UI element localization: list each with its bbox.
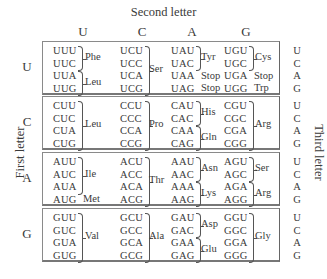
third-letter-C: C [291, 58, 303, 69]
first-letter-G: G [20, 226, 34, 242]
brace-icon [78, 157, 83, 195]
codon-GGU: GGU [224, 212, 248, 223]
second-letter-C: C [132, 24, 152, 40]
amino-acid-arg: Arg [255, 118, 271, 129]
amino-acid-ala: Ala [149, 230, 164, 241]
codon-AUU: AUU [53, 156, 77, 167]
amino-acid-stop: Stop [254, 70, 273, 81]
third-letter-C: C [291, 169, 303, 180]
codon-AUG: AUG [53, 194, 77, 205]
third-letter-G: G [291, 138, 303, 149]
codon-CUU: CUU [53, 100, 76, 111]
codon-GCA: GCA [120, 237, 143, 248]
third-letter-U: U [291, 45, 303, 56]
codon-AUA: AUA [53, 181, 77, 192]
third-letter-C: C [291, 225, 303, 236]
codon-AGU: AGU [224, 156, 248, 167]
codon-CCU: CCU [120, 100, 143, 111]
third-letter-A: A [291, 181, 303, 192]
amino-acid-thr: Thr [149, 174, 164, 185]
codon-CCA: CCA [120, 125, 143, 136]
amino-acid-arg: Arg [255, 187, 271, 198]
first-letter-C: C [20, 114, 34, 130]
second-letter-title: Second letter [0, 5, 327, 20]
codon-AAC: AAC [171, 169, 194, 180]
codon-UGU: UGU [224, 45, 248, 56]
amino-acid-lys: Lys [201, 187, 216, 198]
amino-acid-ile: Ile [85, 168, 96, 179]
codon-GCG: GCG [120, 250, 143, 261]
codon-UAG: UAG [171, 83, 195, 94]
third-letter-U: U [291, 100, 303, 111]
third-letter-A: A [291, 237, 303, 248]
codon-AGC: AGC [224, 169, 247, 180]
third-letter-G: G [291, 194, 303, 205]
brace-icon [78, 213, 83, 263]
codon-CAC: CAC [171, 113, 194, 124]
amino-acid-ser: Ser [255, 162, 269, 173]
codon-GCU: GCU [120, 212, 143, 223]
codon-CCG: CCG [120, 138, 143, 149]
codon-GAG: GAG [171, 250, 195, 261]
codon-UCU: UCU [120, 45, 143, 56]
codon-UGG: UGG [224, 83, 248, 94]
third-letter-G: G [291, 250, 303, 261]
brace-icon [78, 71, 83, 96]
codon-GGG: GGG [224, 250, 248, 261]
second-letter-U: U [73, 24, 93, 40]
codon-UAU: UAU [171, 45, 195, 56]
amino-acid-val: Val [85, 230, 99, 241]
codon-AGA: AGA [224, 181, 248, 192]
brace-icon [249, 101, 254, 151]
brace-icon [78, 46, 83, 71]
amino-acid-met: Met [83, 193, 100, 204]
codon-UGA: UGA [224, 70, 248, 81]
codon-AUC: AUC [53, 169, 76, 180]
codon-CGU: CGU [224, 100, 247, 111]
amino-acid-pro: Pro [149, 118, 164, 129]
codon-CGC: CGC [224, 113, 247, 124]
codon-GUA: GUA [53, 237, 77, 248]
codon-CAG: CAG [171, 138, 194, 149]
codon-AAU: AAU [171, 156, 195, 167]
codon-GAA: GAA [171, 237, 195, 248]
codon-CUG: CUG [53, 138, 76, 149]
codon-UUC: UUC [53, 58, 76, 69]
third-letter-G: G [291, 83, 303, 94]
amino-acid-tyr: Tyr [201, 51, 215, 62]
first-letter-A: A [20, 170, 34, 186]
codon-ACU: ACU [120, 156, 143, 167]
second-letter-A: A [182, 24, 202, 40]
third-letter-A: A [291, 125, 303, 136]
amino-acid-asn: Asn [201, 162, 218, 173]
first-letter-U: U [20, 59, 34, 75]
codon-UGC: UGC [224, 58, 247, 69]
amino-acid-gln: Gln [201, 131, 217, 142]
third-letter-label: Third letter [311, 113, 326, 193]
amino-acid-glu: Glu [201, 243, 217, 254]
codon-UAA: UAA [171, 70, 195, 81]
codon-GGA: GGA [224, 237, 248, 248]
amino-acid-phe: Phe [85, 51, 101, 62]
third-letter-U: U [291, 212, 303, 223]
codon-UCC: UCC [120, 58, 143, 69]
codon-UUA: UUA [53, 70, 77, 81]
codon-GCC: GCC [120, 225, 143, 236]
codon-AAG: AAG [171, 194, 195, 205]
third-letter-C: C [291, 113, 303, 124]
codon-CGG: CGG [224, 138, 247, 149]
amino-acid-asp: Asp [201, 218, 218, 229]
amino-acid-leu: Leu [85, 118, 101, 129]
codon-UCG: UCG [120, 83, 143, 94]
codon-UCA: UCA [120, 70, 143, 81]
codon-ACG: ACG [120, 194, 143, 205]
codon-UUU: UUU [53, 45, 77, 56]
amino-acid-his: His [201, 106, 216, 117]
codon-CAU: CAU [171, 100, 194, 111]
codon-CGA: CGA [224, 125, 247, 136]
amino-acid-ser: Ser [149, 63, 163, 74]
codon-AAA: AAA [171, 181, 195, 192]
codon-GAC: GAC [171, 225, 194, 236]
brace-icon [249, 157, 254, 182]
codon-CUC: CUC [53, 113, 76, 124]
